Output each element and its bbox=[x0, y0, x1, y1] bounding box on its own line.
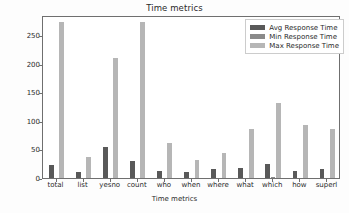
bar bbox=[76, 172, 81, 178]
x-tick-mark bbox=[56, 179, 57, 182]
chart-figure: Time metrics Number of seconds 050100150… bbox=[0, 0, 349, 213]
y-tick-label: 250 bbox=[0, 32, 40, 40]
x-tick-mark bbox=[83, 179, 84, 182]
bar bbox=[140, 22, 145, 178]
bar bbox=[293, 171, 298, 178]
legend-swatch bbox=[250, 43, 265, 48]
y-tick-label: 50 bbox=[0, 146, 40, 154]
bar bbox=[184, 172, 189, 178]
legend-swatch bbox=[250, 34, 265, 39]
y-tick-label: 150 bbox=[0, 89, 40, 97]
bar-group bbox=[130, 17, 146, 178]
x-tick-label: superl bbox=[306, 181, 346, 189]
x-tick-mark bbox=[137, 179, 138, 182]
x-tick-mark bbox=[272, 179, 273, 182]
bar bbox=[167, 143, 172, 178]
bar bbox=[49, 165, 54, 178]
y-tick-label: 200 bbox=[0, 61, 40, 69]
bar bbox=[157, 171, 162, 178]
legend-label: Max Response Time bbox=[269, 42, 339, 50]
bar bbox=[195, 160, 200, 178]
legend-item[interactable]: Max Response Time bbox=[250, 41, 339, 50]
y-tick-label: 100 bbox=[0, 118, 40, 126]
legend-swatch bbox=[250, 25, 265, 30]
x-tick-mark bbox=[110, 179, 111, 182]
legend-label: Min Response Time bbox=[269, 33, 337, 41]
bar bbox=[265, 164, 270, 178]
x-tick-mark bbox=[164, 179, 165, 182]
chart-legend: Avg Response TimeMin Response TimeMax Re… bbox=[245, 19, 344, 54]
bar bbox=[130, 161, 135, 178]
bar bbox=[113, 58, 118, 178]
bar-group bbox=[49, 17, 65, 178]
bar bbox=[222, 153, 227, 178]
x-tick-mark bbox=[326, 179, 327, 182]
bar-group bbox=[103, 17, 119, 178]
bar-group bbox=[157, 17, 173, 178]
bar bbox=[320, 169, 325, 178]
x-tick-mark bbox=[299, 179, 300, 182]
bar bbox=[103, 147, 108, 178]
y-tick-label: 0 bbox=[0, 175, 40, 183]
bar bbox=[59, 22, 64, 178]
bar bbox=[249, 129, 254, 178]
legend-item[interactable]: Avg Response Time bbox=[250, 23, 339, 32]
bar bbox=[86, 157, 91, 178]
legend-label: Avg Response Time bbox=[269, 24, 337, 32]
bar-group bbox=[76, 17, 92, 178]
bar bbox=[330, 129, 335, 178]
bar bbox=[271, 177, 276, 178]
bar-group bbox=[184, 17, 200, 178]
chart-title: Time metrics bbox=[0, 3, 349, 13]
legend-item[interactable]: Min Response Time bbox=[250, 32, 339, 41]
x-axis-label: Time metrics bbox=[0, 195, 349, 203]
bar bbox=[211, 169, 216, 178]
x-tick-mark bbox=[218, 179, 219, 182]
bar bbox=[276, 103, 281, 178]
x-tick-mark bbox=[245, 179, 246, 182]
bar bbox=[238, 168, 243, 178]
x-tick-mark bbox=[191, 179, 192, 182]
bar-group bbox=[211, 17, 227, 178]
y-tick-mark bbox=[39, 179, 42, 180]
bar bbox=[303, 125, 308, 178]
